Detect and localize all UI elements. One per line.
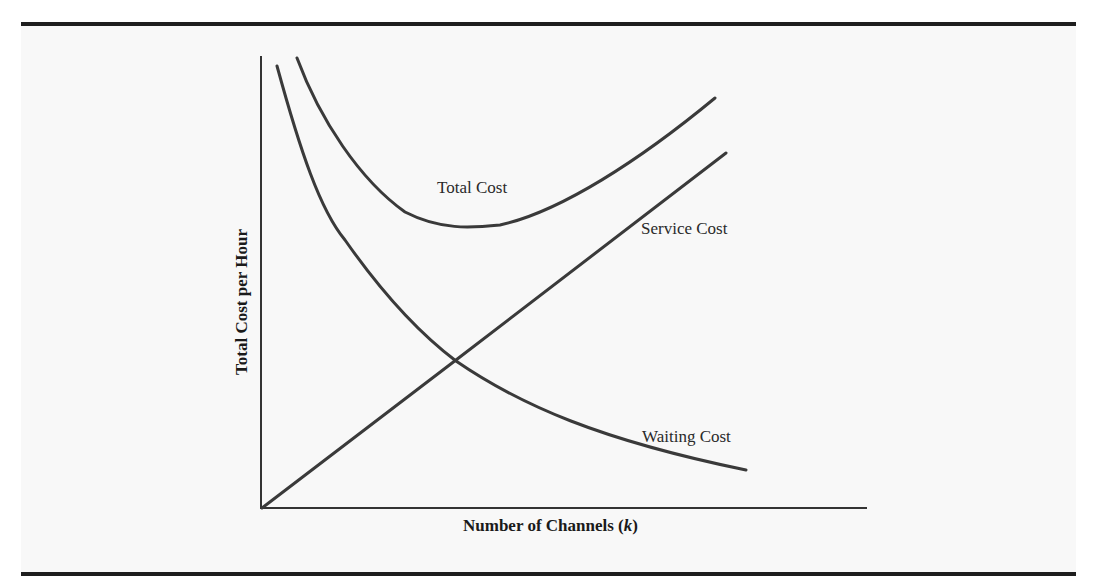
service-cost-label: Service Cost bbox=[641, 219, 728, 238]
total-cost-label: Total Cost bbox=[437, 178, 507, 197]
x-axis-title: Number of Channels (k) bbox=[463, 516, 638, 535]
x-axis-title-text: Number of Channels ( bbox=[463, 516, 624, 535]
y-axis-title: Total Cost per Hour bbox=[232, 229, 251, 375]
waiting-cost-label: Waiting Cost bbox=[642, 427, 731, 446]
service-cost-line bbox=[262, 153, 726, 508]
waiting-cost-curve bbox=[277, 66, 746, 470]
total-cost-curve bbox=[297, 58, 715, 227]
x-axis-title-close: ) bbox=[632, 516, 638, 535]
cost-chart: Total Cost Service Cost Waiting Cost Tot… bbox=[0, 0, 1096, 587]
